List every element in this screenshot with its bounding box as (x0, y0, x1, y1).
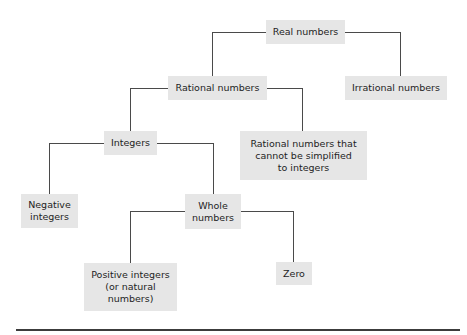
node-irrational-numbers: Irrational numbers (345, 76, 447, 100)
connector-real-right (345, 32, 401, 33)
connector-rational-to-integers (130, 88, 131, 131)
node-real-numbers: Real numbers (266, 20, 345, 44)
node-label: Positive integers (or natural numbers) (91, 269, 170, 305)
connector-integers-left (49, 143, 104, 144)
connector-whole-to-positive (130, 211, 131, 263)
connector-integers-to-whole (213, 143, 214, 194)
node-whole-numbers: Whole numbers (185, 194, 241, 229)
connector-real-left (212, 32, 266, 33)
connector-rational-left (130, 88, 168, 89)
node-label: Real numbers (273, 26, 339, 38)
connector-whole-left (130, 211, 185, 212)
bottom-rule-divider (16, 329, 460, 331)
connector-real-to-irrational (400, 32, 401, 76)
node-label: Rational numbers (176, 82, 260, 94)
connector-rational-to-noninteger (302, 88, 303, 131)
node-label: Zero (283, 268, 305, 280)
connector-whole-right (241, 211, 294, 212)
connector-integers-right (157, 143, 214, 144)
node-zero: Zero (276, 262, 312, 285)
node-label: Integers (111, 137, 150, 149)
connector-rational-right (267, 88, 303, 89)
node-label: Irrational numbers (352, 82, 440, 94)
node-rational-numbers: Rational numbers (168, 76, 267, 100)
connector-real-to-rational (212, 32, 213, 76)
number-classification-diagram: Real numbers Rational numbers Irrational… (0, 0, 467, 335)
node-label: Rational numbers that cannot be simplifi… (250, 138, 356, 174)
connector-whole-to-zero (293, 211, 294, 262)
node-rational-non-integers: Rational numbers that cannot be simplifi… (240, 131, 367, 180)
node-integers: Integers (104, 131, 157, 155)
node-label: Whole numbers (192, 200, 234, 224)
connector-integers-to-negative (49, 143, 50, 194)
node-label: Negative integers (28, 199, 71, 223)
node-negative-integers: Negative integers (21, 194, 78, 228)
node-positive-integers: Positive integers (or natural numbers) (84, 263, 177, 311)
